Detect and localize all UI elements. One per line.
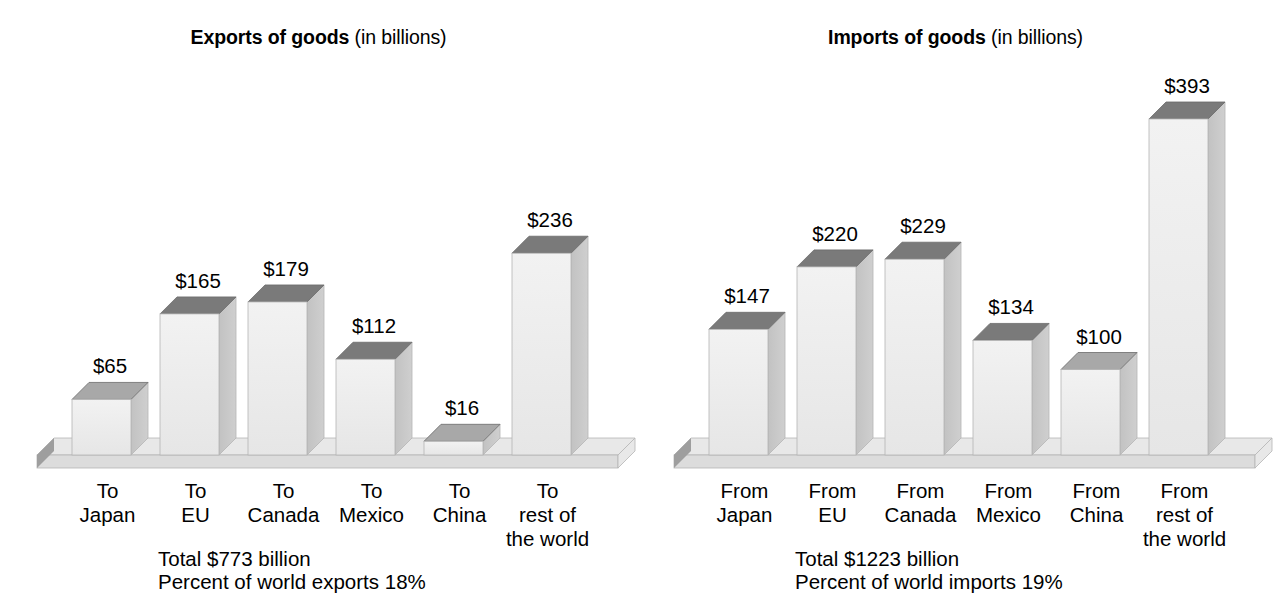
bar-value-label: $112 [352, 314, 396, 337]
bar-category-label: From [897, 479, 945, 502]
bar-imports-4 [1061, 353, 1137, 456]
bar-category-label: To [449, 479, 471, 502]
bar-category-label: To [537, 479, 559, 502]
bar-category-label: EU [181, 503, 209, 526]
bar-value-label: $165 [175, 269, 221, 292]
bar-side-face [1032, 323, 1049, 455]
bar-front-face [973, 340, 1032, 455]
bar-category-label: EU [818, 503, 846, 526]
bar-category-label: From [1161, 479, 1209, 502]
bar-imports-2 [885, 242, 961, 455]
panel-footer: Total $773 billionPercent of world expor… [158, 547, 426, 593]
bar-front-face [709, 329, 768, 455]
bar-side-face [944, 242, 961, 455]
bar-imports-5 [1149, 102, 1225, 455]
bar-category-label: Japan [717, 503, 773, 526]
bar-imports-3 [973, 323, 1049, 455]
bar-imports-1 [797, 250, 873, 455]
plot-exports: $65ToJapan$165ToEU$179ToCanada$112ToMexi… [0, 0, 637, 609]
bar-category-label: From [985, 479, 1033, 502]
bar-side-face [1208, 102, 1225, 455]
bar-category-label: the world [1143, 527, 1226, 550]
floor-front-edge [674, 455, 1255, 468]
bar-front-face [512, 253, 571, 455]
footer-total: Total $773 billion [158, 547, 311, 570]
bar-category-label: From [1073, 479, 1121, 502]
bar-category-label: Canada [248, 503, 320, 526]
bar-value-label: $236 [527, 208, 573, 231]
footer-percent: Percent of world exports 18% [158, 570, 426, 593]
bar-front-face [1149, 119, 1208, 455]
bar-value-label: $16 [445, 396, 479, 419]
bar-value-label: $100 [1076, 325, 1122, 348]
bar-category-label: rest of [519, 503, 576, 526]
bar-exports-1 [160, 297, 236, 455]
bar-side-face [571, 236, 588, 455]
plot-imports: $147FromJapan$220FromEU$229FromCanada$13… [637, 0, 1274, 609]
bar-exports-0 [72, 382, 148, 455]
bar-front-face [797, 267, 856, 455]
bar-value-label: $65 [93, 354, 127, 377]
bar-category-label: China [433, 503, 487, 526]
bar-category-label: To [97, 479, 119, 502]
bar-category-label: Mexico [339, 503, 404, 526]
bar-side-face [1120, 353, 1137, 456]
bar-value-label: $179 [263, 257, 309, 280]
chart-figure: Exports of goods (in billions) $65ToJapa… [0, 0, 1275, 609]
bar-category-label: the world [506, 527, 589, 550]
bar-category-label: Canada [885, 503, 957, 526]
bar-category-label: From [721, 479, 769, 502]
bar-side-face [856, 250, 873, 455]
bar-front-face [424, 441, 483, 455]
footer-total: Total $1223 billion [795, 547, 959, 570]
floor-front-edge [37, 455, 618, 468]
panel-exports: Exports of goods (in billions) $65ToJapa… [0, 0, 637, 609]
bar-front-face [248, 302, 307, 455]
bar-side-face [219, 297, 236, 455]
bar-value-label: $147 [724, 284, 770, 307]
bar-front-face [160, 314, 219, 455]
bar-exports-3 [336, 342, 412, 455]
bar-value-label: $393 [1164, 74, 1210, 97]
panel-imports: Imports of goods (in billions) $147FromJ… [637, 0, 1274, 609]
bar-exports-5 [512, 236, 588, 455]
bar-category-label: Mexico [976, 503, 1041, 526]
bar-category-label: To [273, 479, 295, 502]
footer-percent: Percent of world imports 19% [795, 570, 1063, 593]
bar-category-label: From [809, 479, 857, 502]
bar-front-face [72, 399, 131, 455]
bar-value-label: $220 [812, 222, 858, 245]
panel-footer: Total $1223 billionPercent of world impo… [795, 547, 1063, 593]
bar-value-label: $229 [900, 214, 946, 237]
bar-front-face [336, 359, 395, 455]
bar-category-label: To [185, 479, 207, 502]
bar-front-face [1061, 370, 1120, 456]
bar-value-label: $134 [988, 295, 1034, 318]
bar-front-face [885, 259, 944, 455]
bar-side-face [307, 285, 324, 455]
bar-exports-2 [248, 285, 324, 455]
bar-category-label: rest of [1156, 503, 1213, 526]
bar-category-label: To [361, 479, 383, 502]
bar-side-face [395, 342, 412, 455]
bar-side-face [768, 312, 785, 455]
bar-category-label: China [1070, 503, 1124, 526]
bar-category-label: Japan [80, 503, 136, 526]
bar-imports-0 [709, 312, 785, 455]
